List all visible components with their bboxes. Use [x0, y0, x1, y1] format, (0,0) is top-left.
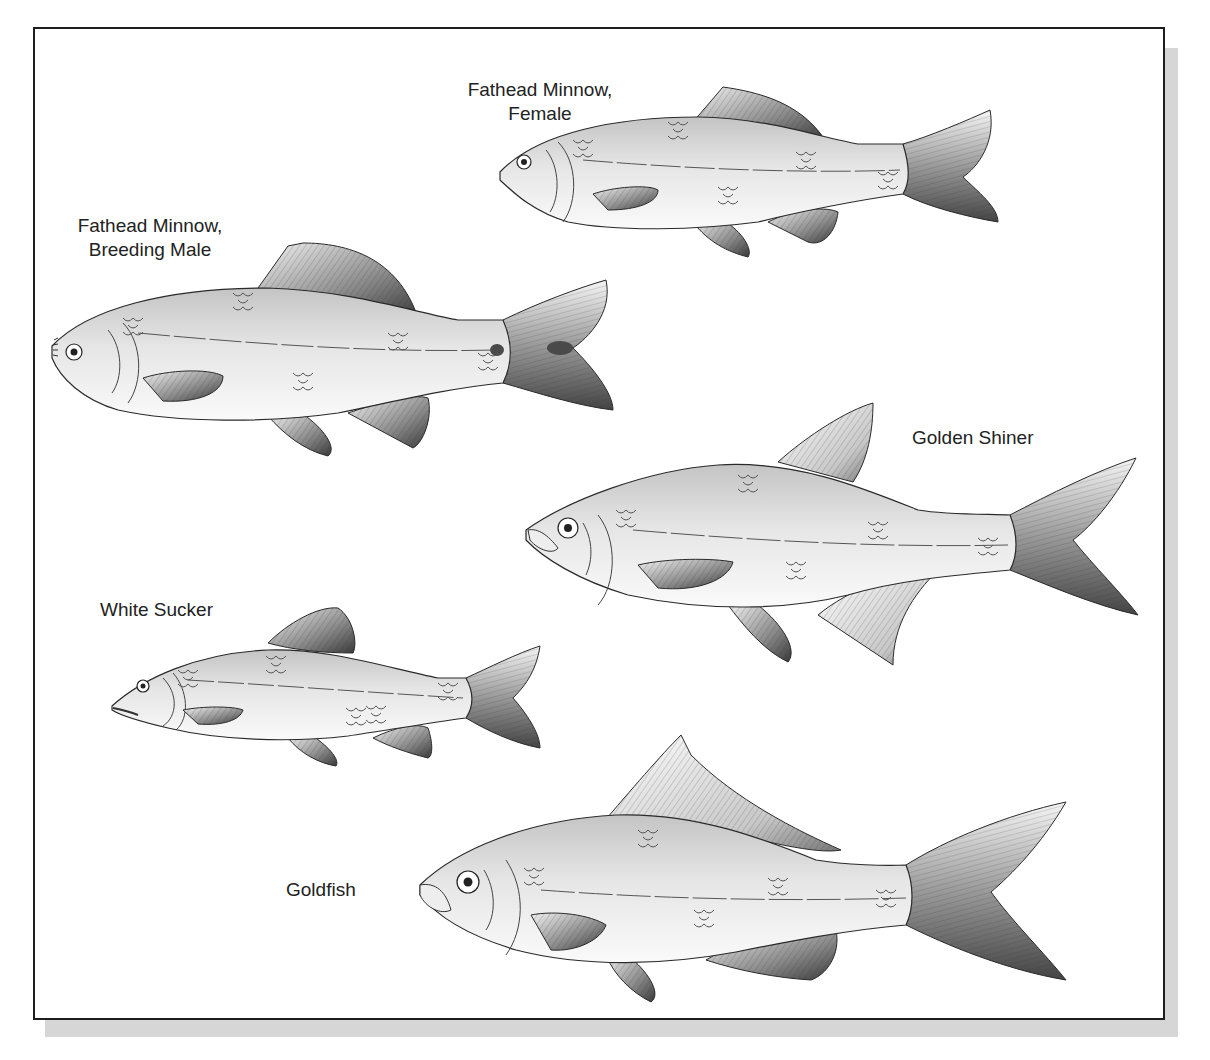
golden-shiner-illustration — [518, 400, 1148, 670]
fathead-minnow-female-illustration — [498, 82, 1008, 262]
label-goldfish: Goldfish — [286, 878, 386, 902]
goldfish-illustration — [416, 730, 1081, 1005]
